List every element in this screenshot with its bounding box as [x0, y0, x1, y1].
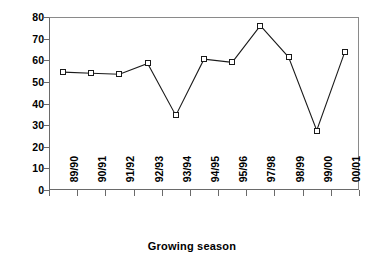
x-tick-label: 99/00 — [322, 156, 334, 202]
data-point-marker — [88, 70, 94, 76]
y-tick-label: 30 — [16, 120, 44, 130]
x-tick-label: 94/95 — [209, 156, 221, 202]
x-tick-label: 93/94 — [181, 156, 193, 202]
y-tick-label: 80 — [16, 12, 44, 22]
x-tick-label: 95/96 — [237, 156, 249, 202]
data-point-marker — [173, 112, 179, 118]
y-tick-label: 40 — [16, 99, 44, 109]
x-tick-label: 91/92 — [124, 156, 136, 202]
x-tick-label: 90/91 — [96, 156, 108, 202]
data-point-marker — [286, 54, 292, 60]
data-point-marker — [201, 56, 207, 62]
x-axis-title: Growing season — [0, 240, 384, 252]
y-tick-label: 0 — [16, 185, 44, 195]
data-point-marker — [116, 71, 122, 77]
data-point-marker — [229, 59, 235, 65]
x-tick-label: 92/93 — [153, 156, 165, 202]
x-tick-label: 97/98 — [265, 156, 277, 202]
x-tick-label: 89/90 — [68, 156, 80, 202]
y-tick-label: 60 — [16, 55, 44, 65]
data-point-marker — [60, 69, 66, 75]
y-tick-label: 50 — [16, 77, 44, 87]
x-tick-label: 00/01 — [350, 156, 362, 202]
data-point-marker — [145, 60, 151, 66]
data-point-marker — [314, 128, 320, 134]
data-point-marker — [257, 23, 263, 29]
x-tick-label: 98/99 — [294, 156, 306, 202]
y-tick-label: 70 — [16, 34, 44, 44]
data-point-marker — [342, 49, 348, 55]
x-tick-mark — [49, 190, 50, 196]
y-tick-label: 10 — [16, 163, 44, 173]
chart-figure: Relative Yield % 01020304050607080 89/90… — [0, 0, 384, 265]
y-tick-label: 20 — [16, 142, 44, 152]
